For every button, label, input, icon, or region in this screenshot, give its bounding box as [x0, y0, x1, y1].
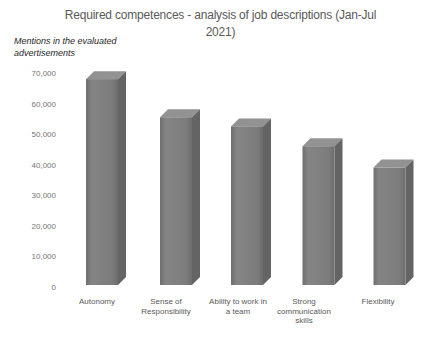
bar-side-face	[118, 71, 126, 285]
y-tick-label: 50,000	[32, 130, 57, 139]
y-tick-label: 0	[52, 283, 57, 292]
x-category-label: Sense of	[150, 297, 182, 306]
bar-side-face	[263, 118, 271, 285]
bar-front-face	[374, 168, 406, 285]
x-category-label: a team	[226, 307, 251, 316]
y-tick-label: 70,000	[32, 69, 57, 78]
y-tick-label: 30,000	[32, 191, 57, 200]
bar-front-face	[303, 146, 335, 285]
x-category-label: skills	[295, 316, 312, 325]
bar-front-face	[86, 79, 118, 285]
y-tick-label: 20,000	[32, 222, 57, 231]
x-category-label: Ability to work in	[209, 297, 267, 306]
x-category-label: Flexibility	[362, 297, 395, 306]
x-category-label: Autonomy	[79, 297, 115, 306]
bar-side-face	[406, 160, 414, 285]
bar-front-face	[160, 117, 192, 285]
y-tick-label: 60,000	[32, 100, 57, 109]
x-category-label: Responsibility	[141, 307, 190, 316]
chart-canvas: Required competences - analysis of job d…	[0, 0, 441, 342]
y-tick-label: 40,000	[32, 161, 57, 170]
bar-side-face	[335, 138, 343, 285]
x-category-label: communication	[277, 307, 331, 316]
bar-chart: 010,00020,00030,00040,00050,00060,00070,…	[0, 0, 441, 342]
y-tick-label: 10,000	[32, 252, 57, 261]
bar-front-face	[231, 126, 263, 285]
bar-side-face	[192, 109, 200, 285]
x-category-label: Strong	[292, 297, 316, 306]
